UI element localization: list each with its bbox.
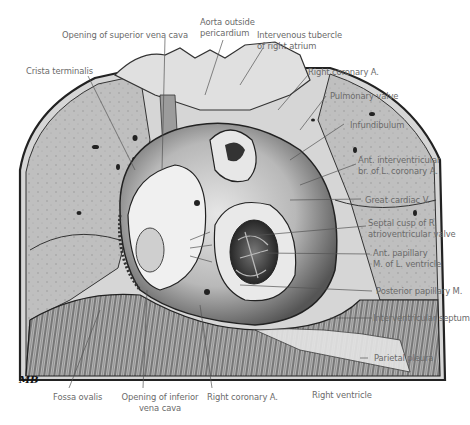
label-septal-cusp-line1: Septal cusp of R.: [368, 218, 437, 228]
label-ant-interventricular-line2: br. of L. coronary A.: [358, 166, 438, 176]
label-opening-inferior-vena-cava-line2: vena cava: [120, 403, 200, 413]
label-opening-superior-vena-cava: Opening of superior vena cava: [62, 30, 188, 40]
label-great-cardiac-v: Great cardiac V.: [365, 195, 430, 205]
label-infundibulum: Infundibulum: [350, 120, 404, 130]
label-septal-cusp-line2: atrioventricular valve: [368, 229, 456, 239]
label-interventricular-septum: Interventricular septum: [373, 313, 470, 323]
label-intervenous-tubercle-line2: of right atrium: [257, 41, 316, 51]
label-intervenous-tubercle-line1: Intervenous tubercle: [257, 30, 342, 40]
label-right-ventricle: Right ventricle: [312, 390, 372, 400]
label-fossa-ovalis: Fossa ovalis: [53, 392, 102, 402]
label-crista-terminalis: Crista terminalis: [26, 66, 93, 76]
label-posterior-papillary-m: Posterior papillary M.: [376, 286, 462, 296]
label-ant-interventricular-line1: Ant. interventricular: [358, 155, 440, 165]
label-right-coronary-a-bottom: Right coronary A.: [207, 392, 278, 402]
label-right-coronary-a-top: Right coronary A.: [308, 67, 379, 77]
label-parietal-pleura: Parietal pleura: [374, 353, 433, 363]
artist-signature: MB: [19, 374, 39, 385]
heart: [119, 123, 336, 325]
label-ant-papillary-line2: M. of L. ventricle: [373, 259, 441, 269]
label-aorta-line2: pericardium: [200, 28, 249, 38]
label-opening-inferior-vena-cava-line1: Opening of inferior: [120, 392, 200, 402]
label-ant-papillary-line1: Ant. papillary: [373, 248, 428, 258]
label-aorta-line1: Aorta outside: [200, 17, 255, 27]
label-pulmonary-valve: Pulmonary valve: [330, 91, 398, 101]
